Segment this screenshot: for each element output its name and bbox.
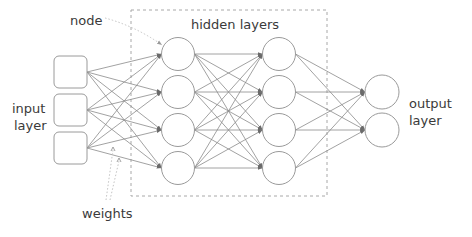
output-layer-label-line1: output (409, 96, 452, 111)
node-label: node (70, 13, 102, 28)
output-layer-label-line2: layer (409, 113, 442, 128)
weight-edge (87, 130, 162, 148)
hidden-node (162, 152, 195, 185)
input-node (54, 94, 87, 126)
weight-edge (296, 54, 366, 92)
weight-connections (87, 54, 365, 168)
weights-pointer (110, 161, 119, 200)
neural-network-diagram: node hidden layers input layer output la… (0, 0, 472, 237)
hidden-node (263, 152, 296, 185)
hidden-node (263, 38, 296, 71)
weight-edge (87, 54, 162, 72)
output-node (365, 113, 399, 147)
weight-edge (87, 54, 162, 148)
input-node (54, 56, 87, 88)
hidden-layers-label: hidden layers (191, 17, 279, 32)
weights-label: weights (82, 206, 133, 221)
hidden-layer-1 (162, 38, 195, 185)
input-layer (54, 56, 87, 164)
hidden-node (263, 76, 296, 109)
hidden-node (162, 114, 195, 147)
input-node (54, 132, 87, 164)
hidden-layer-2 (263, 38, 296, 185)
node-pointer (105, 18, 162, 45)
input-layer-label-line2: layer (14, 118, 47, 133)
hidden-node (162, 76, 195, 109)
output-layer (365, 75, 399, 147)
hidden-node (162, 38, 195, 71)
input-layer-label-line1: input (12, 101, 45, 116)
hidden-node (263, 114, 296, 147)
weight-edge (296, 130, 366, 168)
weight-edge (87, 148, 162, 168)
output-node (365, 75, 399, 109)
